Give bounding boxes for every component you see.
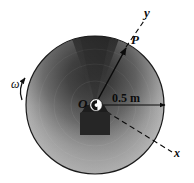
rotating-disk-figure: y x P O ω 0.5 m xyxy=(0,0,194,183)
figure-canvas xyxy=(0,0,194,183)
point-label-p: P xyxy=(131,33,139,46)
omega-label: ω xyxy=(11,78,19,90)
center-hub xyxy=(90,99,103,112)
axis-label-x: x xyxy=(174,147,180,159)
center-label-o: O xyxy=(78,97,87,110)
omega-arrow-icon xyxy=(20,78,25,100)
axis-label-y: y xyxy=(144,6,150,19)
dimension-label: 0.5 m xyxy=(112,92,140,104)
